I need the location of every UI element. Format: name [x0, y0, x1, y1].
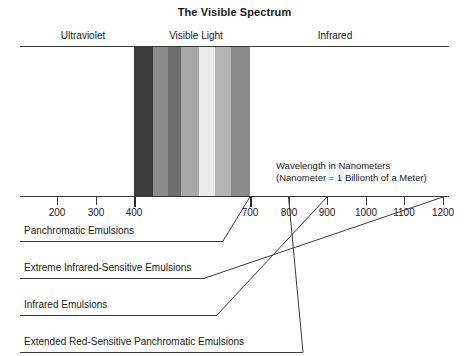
axis-label-300: 300: [76, 207, 116, 218]
visible-spectrum-figure: The Visible Spectrum Ultraviolet Visible…: [0, 0, 469, 356]
axis-label-800: 800: [269, 207, 309, 218]
region-label-infrared: Infrared: [290, 30, 380, 41]
axis-tick-300: [96, 196, 97, 205]
axis-tick-900: [327, 196, 328, 205]
axis-tick-1000: [366, 196, 367, 205]
spectrum-band-yellow: [199, 47, 215, 196]
axis-tick-700: [250, 196, 252, 207]
emulsion-label-extended-red: Extended Red-Sensitive Panchromatic Emul…: [24, 336, 244, 347]
wavelength-annotation-line1: Wavelength in Nanometers: [276, 160, 427, 172]
wavelength-annotation: Wavelength in Nanometers (Nanometer = 1 …: [276, 160, 427, 183]
wavelength-axis-rule: [20, 196, 449, 197]
axis-label-900: 900: [307, 207, 347, 218]
region-label-ultraviolet: Ultraviolet: [38, 30, 128, 41]
axis-label-1000: 1000: [346, 207, 386, 218]
emulsion-rule-infrared: [20, 315, 217, 316]
emulsion-label-infrared: Infrared Emulsions: [24, 299, 107, 310]
spectrum-band-cyan: [168, 47, 181, 196]
region-label-visible-light: Visible Light: [150, 30, 242, 41]
axis-tick-1100: [404, 196, 405, 205]
axis-tick-800: [289, 196, 290, 205]
emulsion-label-panchromatic: Panchromatic Emulsions: [24, 225, 134, 236]
emulsion-rule-panchromatic: [20, 241, 223, 242]
axis-label-200: 200: [37, 207, 77, 218]
spectrum-band-blue: [153, 47, 168, 196]
axis-label-1200: 1200: [423, 207, 463, 218]
axis-tick-1200: [443, 196, 444, 205]
axis-label-400: 400: [114, 207, 154, 218]
spectrum-band-strip: [134, 47, 250, 196]
page-title: The Visible Spectrum: [0, 6, 469, 18]
connector-line-panchromatic: [223, 197, 250, 241]
spectrum-band-red: [231, 47, 250, 196]
emulsion-label-extreme-infrared: Extreme Infrared-Sensitive Emulsions: [24, 262, 191, 273]
spectrum-band-orange: [215, 47, 231, 196]
axis-tick-200: [57, 196, 58, 205]
axis-label-700: 700: [230, 207, 270, 218]
connector-line-extended-red: [289, 197, 304, 352]
axis-label-1100: 1100: [384, 207, 424, 218]
spectrum-band-green: [181, 47, 199, 196]
spectrum-band-violet: [134, 47, 153, 196]
emulsion-rule-extreme-infrared: [20, 278, 205, 279]
axis-tick-400: [134, 196, 136, 207]
wavelength-annotation-line2: (Nanometer = 1 Billionth of a Meter): [276, 172, 427, 184]
emulsion-rule-extended-red: [20, 352, 303, 353]
